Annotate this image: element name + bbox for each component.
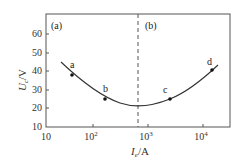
panel-label-a: (a)	[51, 20, 62, 32]
x-tick-label: 102	[84, 130, 98, 142]
x-tick-label: 10	[41, 131, 51, 142]
y-tick-label: 60	[32, 28, 42, 39]
data-point-b	[103, 97, 107, 101]
data-point-c	[168, 97, 172, 101]
y-tick-label: 50	[32, 47, 42, 58]
panel-label-b: (b)	[145, 20, 157, 32]
x-axis-title: Ie/A	[130, 145, 149, 159]
data-point-a	[70, 73, 74, 77]
point-label-d: d	[207, 56, 212, 67]
chart: 60 50 40 30 20 10 10 102 103 104 Uc/V Ie…	[0, 0, 245, 163]
point-label-a: a	[70, 59, 75, 70]
y-tick-label: 30	[32, 84, 42, 95]
point-label-c: c	[163, 84, 168, 95]
x-tick-label: 103	[139, 130, 153, 142]
y-tick-label: 20	[32, 102, 42, 113]
y-tick-label: 40	[32, 65, 42, 76]
y-axis-title: Uc/V	[16, 69, 30, 91]
x-tick-label: 104	[194, 130, 208, 142]
data-curve	[61, 62, 218, 106]
point-label-b: b	[103, 83, 108, 94]
data-point-d	[210, 68, 214, 72]
